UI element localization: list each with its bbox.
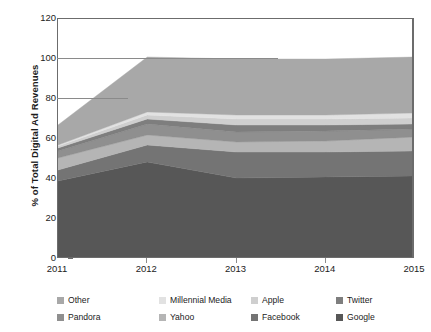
x-axis-tick-label: 2011 — [37, 263, 77, 274]
legend-swatch-icon — [336, 297, 343, 304]
plot-area — [57, 18, 414, 258]
legend-swatch-icon — [251, 297, 258, 304]
y-axis-tick-group: 120100806040200 — [18, 0, 56, 332]
y-axis-tick-label: 60 — [24, 133, 56, 143]
legend-item-yahoo[interactable]: Yahoo — [159, 309, 251, 325]
legend-label: Apple — [262, 295, 284, 305]
chart-container: % of Total Digital Ad Revenues 120100806… — [0, 0, 431, 332]
x-axis-tick-mark — [146, 258, 147, 263]
legend-item-facebook[interactable]: Facebook — [251, 309, 336, 325]
y-axis-tick-label: 0 — [24, 253, 56, 263]
legend-item-apple[interactable]: Apple — [251, 292, 336, 308]
x-axis-tick-label: 2015 — [394, 263, 431, 274]
legend-label: Facebook — [262, 312, 300, 322]
x-axis-tick-label: 2014 — [305, 263, 345, 274]
legend-label: Other — [68, 295, 90, 305]
legend-label: Twitter — [347, 295, 372, 305]
y-axis-tick-label: 120 — [24, 13, 56, 23]
legend-swatch-icon — [251, 314, 258, 321]
x-axis-tick-mark — [325, 258, 326, 263]
gridline-leader — [57, 58, 278, 59]
legend-item-other[interactable]: Other — [57, 292, 159, 308]
x-axis-tick-label: 2012 — [126, 263, 166, 274]
legend-row-1: OtherMillennial MediaAppleTwitter — [57, 292, 431, 308]
legend-item-twitter[interactable]: Twitter — [336, 292, 426, 308]
legend-label: Pandora — [68, 312, 101, 322]
legend-item-millennial-media[interactable]: Millennial Media — [159, 292, 251, 308]
legend-swatch-icon — [57, 314, 64, 321]
gridline-leader — [57, 98, 128, 99]
y-axis-tick-label: 80 — [24, 93, 56, 103]
x-axis-tick-mark — [236, 258, 237, 263]
legend-item-pandora[interactable]: Pandora — [57, 309, 159, 325]
legend-label: Yahoo — [170, 312, 194, 322]
legend-label: Millennial Media — [170, 295, 232, 305]
y-axis-tick-label: 100 — [24, 53, 56, 63]
x-axis-tick-label: 2013 — [216, 263, 256, 274]
y-axis-tick-mark — [68, 258, 73, 259]
legend-swatch-icon — [57, 297, 64, 304]
y-axis-tick-label: 20 — [24, 213, 56, 223]
y-axis-tick-label: 40 — [24, 173, 56, 183]
legend-swatch-icon — [159, 297, 166, 304]
legend-label: Google — [347, 312, 375, 322]
legend-swatch-icon — [336, 314, 343, 321]
stacked-area-plot — [58, 19, 414, 258]
legend-row-2: PandoraYahooFacebookGoogle — [57, 309, 431, 325]
legend-item-google[interactable]: Google — [336, 309, 426, 325]
chart-legend: OtherMillennial MediaAppleTwitter Pandor… — [57, 292, 431, 330]
legend-swatch-icon — [159, 314, 166, 321]
